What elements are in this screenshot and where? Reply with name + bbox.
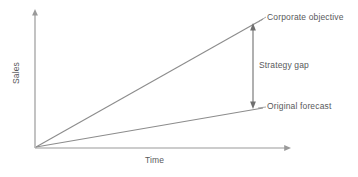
diagram-canvas: Corporate objective Strategy gap Origina…: [0, 0, 358, 177]
x-axis: [35, 145, 291, 151]
strategy-gap-arrow: [250, 23, 256, 109]
y-axis-label: Sales: [12, 62, 21, 84]
strategy-gap-label: Strategy gap: [259, 61, 309, 70]
x-axis-arrowhead-icon: [284, 145, 291, 151]
original-forecast-leader-line: [258, 107, 266, 108]
strategy-gap-diagram: [0, 0, 358, 177]
corporate-objective-label: Corporate objective: [267, 13, 344, 22]
y-axis-arrowhead-icon: [32, 9, 38, 15]
strategy-gap-arrowhead-down-icon: [250, 102, 256, 110]
corporate-objective-leader-line: [258, 17, 266, 22]
original-forecast-label: Original forecast: [267, 102, 331, 111]
x-axis-label: Time: [145, 156, 164, 165]
y-axis: [32, 9, 38, 148]
